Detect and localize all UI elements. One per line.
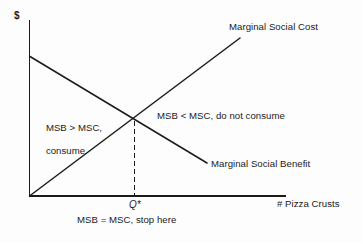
left-region-line-1: MSB > MSC,	[46, 122, 102, 133]
marginal-social-cost-label: Marginal Social Cost	[229, 21, 318, 33]
marginal-social-benefit-label: Marginal Social Benefit	[211, 158, 310, 170]
left-region-annotation: MSB > MSC, consume	[35, 110, 102, 168]
equilibrium-note-label: MSB = MSC, stop here	[77, 214, 176, 226]
supply-demand-diagram: $ # Pizza Crusts Marginal Social Cost Ma…	[0, 0, 362, 243]
x-axis-label: # Pizza Crusts	[277, 198, 340, 210]
equilibrium-tick-label: Q*	[129, 199, 141, 211]
y-axis-label: $	[14, 10, 20, 22]
left-region-line-2: consume	[46, 145, 85, 156]
right-region-annotation: MSB < MSC, do not consume	[157, 110, 285, 122]
